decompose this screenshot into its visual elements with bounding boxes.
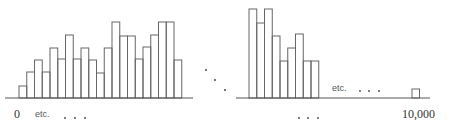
label-etc-left: etc. xyxy=(35,109,50,119)
histogram-bar xyxy=(249,9,257,98)
histogram-bar xyxy=(166,22,174,98)
label-etc-right: etc. xyxy=(332,83,347,93)
histogram-chart: 0 etc. etc. 10,000 xyxy=(0,0,451,132)
ellipsis-right xyxy=(359,90,380,92)
histogram-bar xyxy=(143,47,151,98)
histogram-bar xyxy=(97,73,105,98)
histogram-bar xyxy=(151,35,159,98)
histogram-bar xyxy=(112,22,120,98)
histogram-bar xyxy=(135,59,143,98)
histogram-bar xyxy=(35,60,43,98)
histogram-bar xyxy=(27,72,35,98)
histogram-bar xyxy=(19,86,27,98)
histogram-bar xyxy=(66,35,74,98)
end-bar xyxy=(412,89,420,98)
histogram-bar xyxy=(303,61,311,98)
histogram-bar xyxy=(257,23,265,98)
histogram-bar xyxy=(288,48,296,98)
histogram-bar xyxy=(73,59,81,98)
histogram-bar xyxy=(81,48,89,98)
histogram-bar xyxy=(272,36,280,98)
label-zero: 0 xyxy=(14,107,20,121)
histogram-bar xyxy=(120,36,128,98)
histogram-bar xyxy=(159,22,167,98)
histogram-bar xyxy=(50,48,58,98)
ellipsis-middle xyxy=(298,117,319,119)
histogram-bar xyxy=(104,48,112,98)
right-histogram-bars xyxy=(249,9,319,98)
histogram-bar xyxy=(174,60,182,98)
break-dots xyxy=(205,69,226,91)
histogram-bar xyxy=(296,34,304,98)
histogram-bar xyxy=(89,60,97,98)
histogram-bar xyxy=(280,61,288,98)
left-histogram-bars xyxy=(19,22,182,98)
histogram-bar xyxy=(265,9,273,98)
histogram-bar xyxy=(311,61,319,98)
label-ten-thousand: 10,000 xyxy=(402,107,435,121)
histogram-bar xyxy=(128,36,136,98)
histogram-bar xyxy=(42,72,50,98)
ellipsis-left xyxy=(64,117,86,119)
histogram-bar xyxy=(58,59,66,98)
